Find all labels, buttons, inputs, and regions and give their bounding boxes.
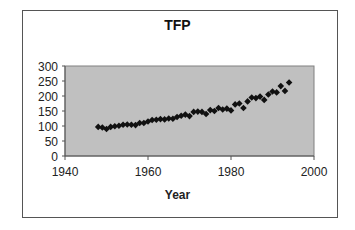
x-axis-label: Year: [0, 188, 355, 202]
y-tick-label: 0: [51, 150, 58, 164]
x-tick-label: 1960: [135, 165, 162, 179]
y-tick-label: 100: [38, 120, 58, 134]
y-tick-label: 250: [38, 75, 58, 89]
y-tick-label: 200: [38, 90, 58, 104]
x-tick-label: 2000: [301, 165, 328, 179]
y-tick-label: 50: [45, 135, 59, 149]
y-tick-label: 150: [38, 105, 58, 119]
y-axis: 050100150200250300: [38, 60, 65, 164]
x-tick-label: 1940: [52, 165, 79, 179]
plot-area: [65, 66, 314, 156]
x-tick-label: 1980: [218, 165, 245, 179]
x-axis: 1940196019802000: [52, 156, 328, 179]
y-tick-label: 300: [38, 60, 58, 74]
